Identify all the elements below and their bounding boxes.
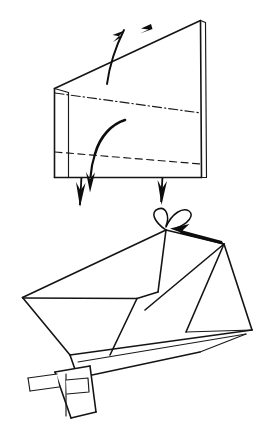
origami-diagram-page <box>0 0 267 444</box>
lower-inner-horizontal-edge <box>23 298 137 299</box>
upper-right-edge-outer <box>201 21 202 178</box>
lower-tab-right-half-fill <box>66 378 89 394</box>
origami-diagram-canvas <box>0 0 267 444</box>
